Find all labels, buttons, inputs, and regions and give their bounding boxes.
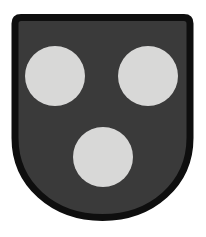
roundel-top-left [25, 46, 85, 106]
shield-escutcheon [15, 18, 190, 218]
page-background [0, 0, 206, 237]
roundel-top-right [118, 46, 178, 106]
roundel-bottom [73, 127, 133, 187]
coat-of-arms-image [0, 0, 206, 237]
